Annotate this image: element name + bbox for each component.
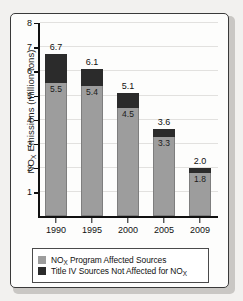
bar-2009[interactable]: 2.01.8: [189, 168, 211, 216]
gridline: [40, 22, 218, 23]
bar-segment-nox-program[interactable]: 1.8: [189, 173, 211, 217]
y-tick-mark: [34, 96, 39, 97]
bar-inner-value-label: 4.5: [122, 109, 134, 119]
legend-label-nox-program: NOX Program Affected Sources: [51, 255, 166, 265]
x-tick-label: 2009: [190, 225, 210, 235]
x-tick-label: 1990: [46, 225, 66, 235]
x-tick-mark: [163, 218, 164, 223]
bar-1995[interactable]: 6.15.4: [81, 69, 103, 216]
y-tick-mark: [34, 23, 39, 24]
y-tick-label: 2: [27, 163, 32, 173]
y-tick-mark: [34, 120, 39, 121]
x-tick-label: 2005: [154, 225, 174, 235]
y-tick-label: 8: [27, 18, 32, 28]
bar-segment-title-iv[interactable]: [45, 54, 67, 83]
bar-segment-nox-program[interactable]: 5.4: [81, 86, 103, 217]
bar-total-value-label: 3.6: [158, 117, 171, 127]
legend-swatch-gray-icon: [38, 256, 46, 264]
bar-1990[interactable]: 6.75.5: [45, 54, 67, 216]
bar-segment-title-iv[interactable]: [81, 69, 103, 86]
bar-segment-nox-program[interactable]: 3.3: [153, 137, 175, 217]
figure-root: NOX Emissions (million tons) 12345678199…: [0, 0, 243, 301]
y-tick-label: 5: [27, 91, 32, 101]
bar-total-value-label: 5.1: [122, 81, 135, 91]
y-tick-label: 1: [27, 187, 32, 197]
bar-segment-nox-program[interactable]: 5.5: [45, 83, 67, 216]
y-axis-title-subscript: X: [30, 154, 37, 159]
x-tick-mark: [91, 218, 92, 223]
bar-inner-value-label: 1.8: [194, 174, 206, 184]
gridline: [40, 46, 218, 47]
x-tick-mark: [55, 218, 56, 223]
bar-2000[interactable]: 5.14.5: [117, 93, 139, 216]
bar-segment-nox-program[interactable]: 4.5: [117, 108, 139, 217]
y-tick-mark: [34, 71, 39, 72]
legend-label-0-post: Program Affected Sources: [68, 255, 167, 265]
x-tick-mark: [199, 218, 200, 223]
y-tick-mark: [34, 168, 39, 169]
y-tick-mark: [34, 144, 39, 145]
legend-label-title-iv: Title IV Sources Not Affected for NOX: [51, 266, 187, 276]
bar-inner-value-label: 5.4: [86, 87, 98, 97]
x-tick-label: 2000: [118, 225, 138, 235]
y-tick-mark: [34, 192, 39, 193]
y-tick-label: 7: [27, 42, 32, 52]
chart-card: NOX Emissions (million tons) 12345678199…: [10, 13, 229, 288]
y-tick-label: 4: [27, 115, 32, 125]
legend-swatch-dark-icon: [38, 267, 46, 275]
plot-area: 1234567819906.75.519956.15.420005.14.520…: [38, 23, 218, 218]
y-tick-label: 6: [27, 66, 32, 76]
bar-total-value-label: 2.0: [194, 156, 207, 166]
legend-label-0-sub: X: [63, 259, 67, 266]
y-tick-mark: [34, 47, 39, 48]
legend-label-1-pre: Title IV Sources Not Affected for NO: [51, 266, 183, 276]
x-tick-mark: [127, 218, 128, 223]
bar-total-value-label: 6.7: [50, 42, 63, 52]
legend-label-0-pre: NO: [51, 255, 63, 265]
legend-item-nox-program: NOX Program Affected Sources: [38, 255, 203, 265]
legend-label-1-sub: X: [183, 270, 187, 277]
legend-item-title-iv: Title IV Sources Not Affected for NOX: [38, 266, 203, 276]
bar-inner-value-label: 3.3: [158, 138, 170, 148]
bar-2005[interactable]: 3.63.3: [153, 129, 175, 216]
x-tick-label: 1995: [82, 225, 102, 235]
y-tick-label: 3: [27, 139, 32, 149]
bar-segment-title-iv[interactable]: [117, 93, 139, 108]
bar-segment-title-iv[interactable]: [153, 129, 175, 136]
bar-inner-value-label: 5.5: [50, 84, 62, 94]
chart-legend: NOX Program Affected Sources Title IV So…: [32, 248, 209, 283]
bar-total-value-label: 6.1: [86, 57, 99, 67]
